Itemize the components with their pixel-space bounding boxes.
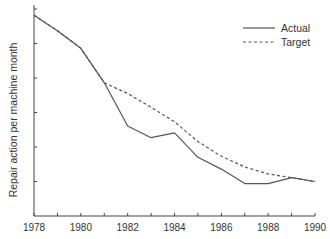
x-tick-label: 1980 xyxy=(70,222,93,233)
y-axis-label: Repair action per machine month xyxy=(7,43,19,198)
x-tick-label: 1988 xyxy=(257,222,280,233)
series-line-actual xyxy=(34,15,315,183)
legend: Actual Target xyxy=(243,22,310,48)
line-chart: 1978198019821984198619881990 Repair acti… xyxy=(0,0,330,239)
x-tick-label: 1986 xyxy=(210,222,233,233)
x-tick-label: 1978 xyxy=(23,222,46,233)
series-lines xyxy=(34,15,315,183)
x-tick-label: 1984 xyxy=(163,222,186,233)
x-tick-label: 1990 xyxy=(304,222,327,233)
legend-label-target: Target xyxy=(281,36,310,48)
legend-label-actual: Actual xyxy=(281,22,310,34)
series-line-target xyxy=(34,15,315,181)
x-tick-label: 1982 xyxy=(117,222,140,233)
